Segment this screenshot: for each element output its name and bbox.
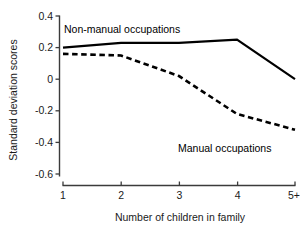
x-tick-label-5plus: 5+ [288, 189, 300, 201]
line-chart-canvas: 0.4 0.2 0 -0.2 -0.4 -0.6 Standard deviat… [0, 0, 307, 238]
y-axis: 0.4 0.2 0 -0.2 -0.4 -0.6 Standard deviat… [7, 10, 60, 180]
y-tick-label-0: 0 [47, 73, 53, 85]
x-tick-label-3: 3 [176, 189, 182, 201]
y-tick-label--0.6: -0.6 [35, 168, 53, 180]
x-tick-label-1: 1 [60, 189, 66, 201]
series-label-non-manual: Non-manual occupations [64, 23, 180, 35]
y-tick-label--0.4: -0.4 [35, 136, 53, 148]
series-label-manual: Manual occupations [178, 142, 271, 154]
chart-figure: 0.4 0.2 0 -0.2 -0.4 -0.6 Standard deviat… [0, 0, 307, 238]
x-axis: 1 2 3 4 5+ Number of children in family [60, 182, 300, 224]
series-line-manual [63, 54, 295, 130]
y-axis-title: Standard deviation scores [7, 39, 19, 160]
y-tick-label-0.2: 0.2 [38, 41, 53, 53]
x-tick-label-4: 4 [235, 189, 241, 201]
y-tick-label--0.2: -0.2 [35, 104, 53, 116]
x-tick-label-2: 2 [118, 189, 124, 201]
series-group [63, 40, 295, 130]
series-line-non-manual [63, 40, 295, 79]
x-axis-title: Number of children in family [115, 211, 246, 223]
y-tick-label-0.4: 0.4 [38, 10, 53, 22]
